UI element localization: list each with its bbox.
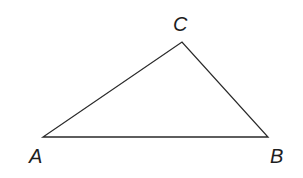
vertex-label-a: A <box>29 146 42 166</box>
triangle-shape <box>0 0 303 178</box>
vertex-label-c: C <box>173 14 187 34</box>
triangle-diagram: C A B <box>0 0 303 178</box>
vertex-label-b: B <box>270 146 283 166</box>
